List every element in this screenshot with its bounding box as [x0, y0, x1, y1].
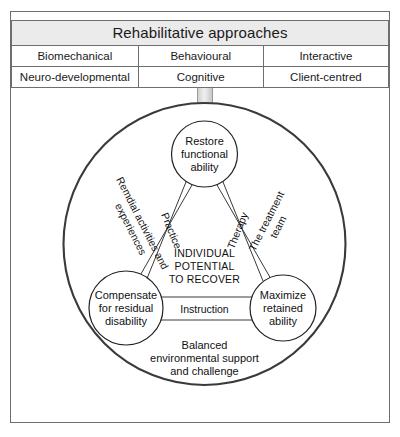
- node-compensate-line-1: Compensate: [95, 289, 157, 301]
- footer-line-3: and challenge: [170, 365, 239, 377]
- footer-line-1: Balanced: [182, 339, 228, 351]
- node-maximize-line-2: retained: [263, 302, 303, 314]
- edge-label-instruction-text: Instruction: [180, 303, 229, 315]
- node-restore-line-1: Restore: [185, 135, 224, 147]
- center-label-line-2: POTENTIAL: [174, 260, 234, 272]
- center-label-line-3: TO RECOVER: [169, 273, 240, 285]
- node-restore-line-3: ability: [190, 161, 219, 173]
- figure-root: Rehabilitative approaches Biomechanical …: [0, 0, 400, 437]
- node-restore-line-2: functional: [181, 148, 228, 160]
- footer-line-2: environmental support: [150, 352, 259, 364]
- node-compensate-line-3: disability: [105, 315, 148, 327]
- triangle-model-diagram: Restore functional ability Compensate fo…: [0, 0, 400, 437]
- center-label: INDIVIDUAL POTENTIAL TO RECOVER: [169, 247, 240, 285]
- center-label-line-1: INDIVIDUAL: [174, 247, 235, 259]
- node-compensate-line-2: for residual: [99, 302, 153, 314]
- node-maximize-line-1: Maximize: [260, 289, 306, 301]
- node-maximize-line-3: ability: [269, 315, 298, 327]
